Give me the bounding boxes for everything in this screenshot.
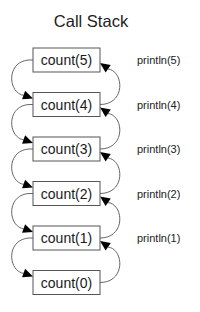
stack-frame-count-4: count(4) xyxy=(33,93,100,117)
call-arrow xyxy=(12,104,33,140)
output-note-println-2: println(2) xyxy=(137,188,180,200)
diagram-title: Call Stack xyxy=(54,12,129,30)
output-note-println-1: println(1) xyxy=(137,232,180,244)
stack-frame-count-5: count(5) xyxy=(33,48,100,72)
return-arrowhead xyxy=(100,152,111,161)
stack-frame-count-3: count(3) xyxy=(33,137,100,161)
frame-label: count(3) xyxy=(41,141,92,157)
frames-layer: count(5)count(4)count(3)count(2)count(1)… xyxy=(33,48,100,295)
call-arrow xyxy=(12,238,33,274)
frame-label: count(5) xyxy=(41,52,92,68)
frame-label: count(0) xyxy=(41,275,92,291)
return-arrow xyxy=(100,203,120,239)
output-note-println-3: println(3) xyxy=(137,143,180,155)
call-arrowhead xyxy=(22,91,33,99)
stack-frame-count-0: count(0) xyxy=(33,271,100,295)
return-arrowhead xyxy=(100,197,111,206)
call-arrowhead xyxy=(22,180,33,188)
output-note-println-5: println(5) xyxy=(137,54,180,66)
call-arrow xyxy=(12,193,33,229)
return-arrow xyxy=(100,247,120,283)
notes-layer: println(5)println(4)println(3)println(2)… xyxy=(137,54,180,244)
call-arrowhead xyxy=(22,135,33,143)
output-note-println-4: println(4) xyxy=(137,99,180,111)
return-arrowhead xyxy=(100,63,111,72)
call-arrowhead xyxy=(22,269,33,277)
return-arrowhead xyxy=(100,241,111,250)
call-arrow xyxy=(12,149,33,185)
return-arrow xyxy=(100,114,120,150)
return-arrow xyxy=(100,69,120,105)
call-arrow xyxy=(12,60,33,96)
call-arrowhead xyxy=(22,224,33,232)
frame-label: count(2) xyxy=(41,186,92,202)
call-stack-diagram: Call Stack count(5)count(4)count(3)count… xyxy=(0,0,200,312)
frame-label: count(4) xyxy=(41,97,92,113)
stack-frame-count-1: count(1) xyxy=(33,226,100,250)
frame-label: count(1) xyxy=(41,230,92,246)
stack-frame-count-2: count(2) xyxy=(33,182,100,206)
return-arrow xyxy=(100,158,120,194)
return-arrowhead xyxy=(100,108,111,117)
